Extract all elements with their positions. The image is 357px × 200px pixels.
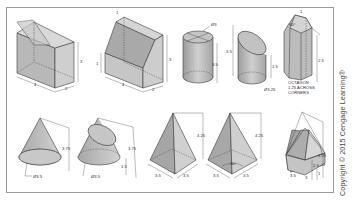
shape-rotated-pyramid bbox=[206, 113, 261, 178]
dim-height: 3.5 bbox=[212, 62, 218, 67]
dim-height: 3 bbox=[80, 59, 83, 64]
dim-height: 3.75 bbox=[62, 146, 71, 151]
shape-cylinder bbox=[183, 26, 217, 83]
dim-base-b: 3.5 bbox=[183, 173, 189, 178]
dim-height: 4.25 bbox=[318, 153, 327, 158]
dim-base-b: 3 bbox=[305, 175, 308, 180]
dim-angle: 60° bbox=[289, 22, 296, 27]
dim-left-height: 1 bbox=[96, 61, 99, 66]
shape-inclined-prism bbox=[101, 17, 167, 92]
copyright-notice: Copyright © 2015 Cengage Learning® bbox=[338, 70, 347, 196]
dim-height: 3 bbox=[169, 57, 172, 62]
dim-base-b: 3.5 bbox=[243, 173, 249, 178]
dim-base-a: 3.5 bbox=[213, 173, 219, 178]
dim-cut-height: 1.5 bbox=[121, 164, 127, 169]
octagon-note-line3: CORNERS bbox=[288, 90, 309, 95]
dim-diameter: Ø3.25 bbox=[264, 87, 276, 92]
dim-height: 4.25 bbox=[197, 133, 206, 138]
dim-height: 3.5 bbox=[226, 49, 232, 54]
dim-diameter: Ø3.5 bbox=[33, 174, 43, 179]
dim-width: 4 bbox=[34, 82, 37, 87]
dim-height: 3.75 bbox=[128, 146, 137, 151]
dim-lower-height: 2.5 bbox=[313, 163, 319, 168]
dim-diameter: Ø3.5 bbox=[91, 174, 101, 179]
shape-square-pyramid bbox=[148, 113, 203, 178]
shape-rect-prism bbox=[17, 20, 78, 92]
dim-diameter: Ø3 bbox=[211, 22, 217, 27]
dim-base-a: 3.5 bbox=[290, 173, 296, 178]
dim-base-a: 3.5 bbox=[155, 173, 161, 178]
dim-small: 1 bbox=[318, 171, 321, 176]
shape-truncated-cylinder bbox=[233, 25, 271, 84]
dim-angle: 90° bbox=[230, 161, 237, 166]
dim-height: 4.25 bbox=[255, 133, 264, 138]
technical-drawing: 4 2 3 4 2 3 1 1 Ø3 3.5 3.5 1.5 Ø3.25 2.5… bbox=[0, 0, 357, 200]
dim-height: 2.5 bbox=[318, 58, 324, 63]
dim-top: 1 bbox=[300, 9, 303, 14]
dim-width: 4 bbox=[122, 82, 125, 87]
dim-depth: 2 bbox=[65, 86, 68, 91]
dim-depth: 2 bbox=[152, 87, 155, 92]
dim-short-height: 1.5 bbox=[272, 64, 278, 69]
dim-top: 1 bbox=[116, 10, 119, 15]
shape-truncated-pyramid bbox=[286, 112, 325, 180]
